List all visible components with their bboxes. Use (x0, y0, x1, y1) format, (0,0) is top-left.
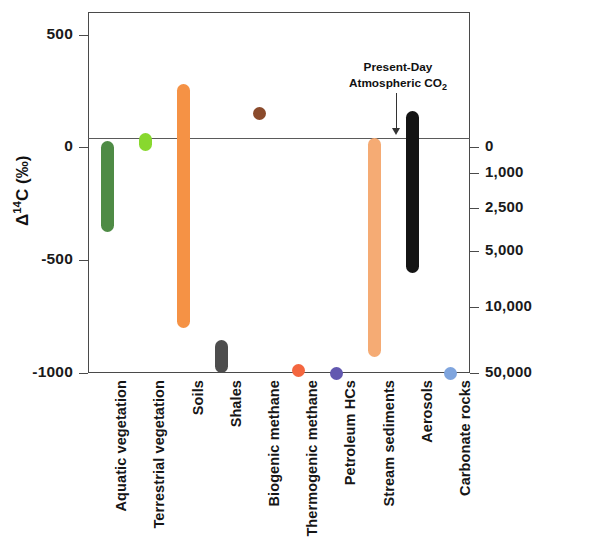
range-marker (101, 141, 114, 232)
y-axis-tick-label-right: 50,000 (485, 363, 532, 380)
range-marker (444, 367, 457, 380)
x-axis-category-label: Aerosols (419, 380, 435, 443)
y-axis-tick-label-right: 0 (485, 137, 494, 154)
y-axis-tick-label-right: 1,000 (485, 163, 524, 180)
present-day-co2-annotation: Present-Day Atmospheric CO2 (318, 60, 478, 93)
range-marker (215, 340, 228, 373)
y-axis-tick-left (79, 147, 88, 148)
y-axis-tick-right (470, 373, 479, 374)
chart-figure: Δ14C (‰) 5000-500-1000 Present-Day Atmos… (0, 0, 613, 538)
x-axis-category-label: Aquatic vegetation (113, 380, 129, 512)
x-axis-category-label: Stream sediments (381, 380, 397, 507)
x-axis-category-label: Biogenic methane (266, 380, 282, 507)
annotation-arrow-shaft (396, 93, 397, 131)
y-axis-title-left-delta: Δ (13, 214, 32, 226)
y-axis-tick-label-left: -1000 (0, 363, 73, 381)
y-axis-tick-left (79, 35, 88, 36)
y-axis-tick-label-left: -500 (0, 250, 73, 268)
range-marker (177, 84, 190, 328)
range-marker (330, 367, 343, 380)
y-axis-tick-right (470, 208, 479, 209)
y-axis-tick-right (470, 147, 479, 148)
y-axis-tick-label-left: 500 (0, 25, 73, 43)
y-axis-title-left-main: C ( (13, 178, 32, 201)
annotation-line-2-text: Atmospheric CO (349, 76, 442, 90)
y-axis-tick-right (470, 173, 479, 174)
x-axis-category-label: Shales (228, 380, 244, 427)
annotation-line-1: Present-Day (318, 60, 478, 76)
range-marker (368, 138, 381, 356)
y-axis-tick-label-left: 0 (0, 137, 73, 155)
y-axis-tick-label-right: 5,000 (485, 241, 524, 258)
x-axis-category-label: Thermogenic methane (304, 380, 320, 537)
x-axis-category-label: Terrestrial vegetation (151, 380, 167, 529)
x-axis-category-label: Petroleum HCs (342, 380, 358, 485)
range-marker (406, 111, 419, 273)
x-axis-category-label: Soils (190, 380, 206, 415)
y-axis-tick-right (470, 251, 479, 252)
range-marker (292, 364, 305, 377)
y-axis-tick-right (470, 307, 479, 308)
annotation-line-2-subscript: 2 (442, 82, 447, 92)
x-axis-category-label: Carbonate rocks (457, 380, 473, 496)
annotation-arrow-head-icon (392, 128, 400, 135)
annotation-line-2: Atmospheric CO2 (318, 76, 478, 94)
y-axis-title-left-unit: ‰) (13, 156, 32, 179)
y-axis-tick-left (79, 373, 88, 374)
y-axis-tick-left (79, 260, 88, 261)
y-axis-title-left-superscript: 14 (11, 201, 23, 214)
range-marker (139, 133, 152, 151)
y-axis-tick-label-right: 2,500 (485, 198, 524, 215)
y-axis-tick-label-right: 10,000 (485, 297, 532, 314)
